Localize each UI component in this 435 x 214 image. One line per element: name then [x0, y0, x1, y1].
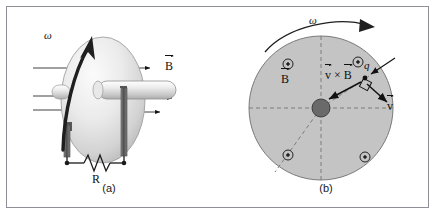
disc — [61, 37, 145, 163]
omega-label-a: ω — [44, 29, 52, 41]
b-field-label-b-text: B — [281, 72, 289, 86]
panel-a: ω B R (a) — [0, 0, 218, 214]
circuit-node-left — [65, 161, 70, 166]
b-field-label-a: B — [165, 59, 173, 74]
omega-label-b: ω — [309, 14, 317, 26]
figure-container: ω B R (a) — [0, 0, 435, 214]
panel-b: ω B v×B q v (b) — [217, 0, 435, 214]
velocity-label-text: v — [387, 99, 393, 113]
circuit-node-right — [122, 161, 127, 166]
v-cross-b-label: v×B — [325, 68, 352, 83]
axle — [93, 81, 176, 99]
panel-a-caption: (a) — [0, 182, 218, 194]
axle-left-stub — [52, 85, 70, 99]
panel-b-caption: (b) — [217, 182, 435, 194]
brush-axle-contact — [120, 86, 127, 156]
hub — [312, 99, 330, 117]
b-field-label-a-text: B — [165, 59, 173, 73]
v-cross-b-label-b: B — [344, 68, 352, 82]
charge-label: q — [364, 59, 370, 71]
b-field-label-b: B — [281, 72, 289, 87]
v-cross-b-label-times: × — [334, 68, 341, 82]
velocity-label: v — [387, 99, 393, 114]
v-cross-b-label-v: v — [325, 68, 331, 82]
